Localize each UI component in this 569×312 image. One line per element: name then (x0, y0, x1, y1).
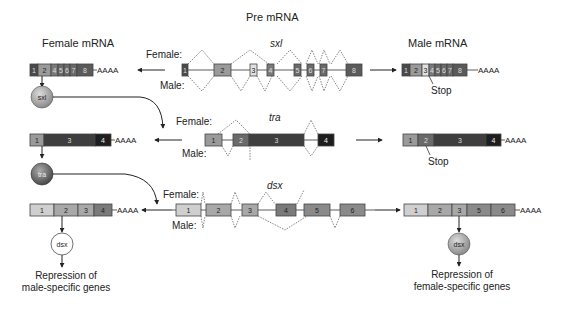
female-mrna-heading: Female mRNA (42, 37, 115, 49)
svg-text:5: 5 (296, 67, 300, 74)
svg-text:1: 1 (32, 67, 36, 74)
svg-text:3: 3 (84, 207, 88, 214)
female-outcome-line1: Repression of (35, 270, 97, 281)
svg-text:5: 5 (477, 207, 481, 214)
svg-text:4: 4 (284, 207, 288, 214)
svg-text:1: 1 (183, 67, 187, 74)
svg-text:6: 6 (65, 67, 69, 74)
svg-text:2: 2 (217, 207, 221, 214)
svg-text:8: 8 (352, 67, 356, 74)
svg-text:7: 7 (72, 67, 76, 74)
svg-text:2: 2 (414, 67, 418, 74)
svg-text:3: 3 (68, 137, 72, 144)
tra-pre-mrna: tra Female: Male: 1 2 3 4 (176, 112, 334, 160)
dsx-male-mrna: 1 2 3 5 6 AAAA (404, 204, 542, 216)
dsx-male-protein: dsx (448, 233, 470, 255)
svg-text:5: 5 (436, 67, 440, 74)
sxl-pre-mrna: sxl Female: Male: 1 2 3 4 5 6 7 (146, 38, 362, 91)
svg-text:4: 4 (101, 207, 105, 214)
male-mrna-heading: Male mRNA (408, 37, 468, 49)
svg-text:2: 2 (438, 207, 442, 214)
svg-text:6: 6 (351, 207, 355, 214)
svg-text:3: 3 (424, 67, 428, 74)
svg-text:8: 8 (83, 67, 87, 74)
svg-text:AAAA: AAAA (115, 136, 137, 145)
svg-text:tra: tra (269, 112, 281, 123)
svg-text:tra: tra (38, 171, 46, 178)
svg-text:AAAA: AAAA (117, 206, 139, 215)
svg-text:AAAA: AAAA (505, 136, 527, 145)
sxl-female-label: Female: (146, 49, 182, 60)
svg-text:3: 3 (252, 67, 256, 74)
svg-text:1: 1 (40, 207, 44, 214)
tra-regulates-dsx-arrow (53, 174, 157, 204)
svg-text:4: 4 (430, 67, 434, 74)
svg-text:1: 1 (35, 137, 39, 144)
svg-text:2: 2 (239, 137, 243, 144)
svg-text:7: 7 (448, 67, 452, 74)
svg-text:dsx: dsx (454, 241, 465, 248)
svg-text:8: 8 (458, 67, 462, 74)
svg-text:AAAA: AAAA (478, 66, 500, 75)
svg-text:1: 1 (409, 137, 413, 144)
pre-mrna-title: Pre mRNA (246, 11, 299, 23)
svg-text:1: 1 (212, 137, 216, 144)
sex-determination-diagram: Pre mRNA Female mRNA Male mRNA sxl Femal… (0, 0, 569, 312)
tra-female-mrna: 1 3 4 AAAA (30, 134, 137, 146)
sxl-regulates-tra-arrow (53, 97, 163, 128)
tra-stop-label: Stop (428, 156, 449, 167)
tra-male-mrna: 1 2 3 4 AAAA Stop (403, 134, 527, 167)
svg-text:dsx: dsx (267, 180, 284, 191)
svg-text:4: 4 (324, 137, 328, 144)
svg-text:6: 6 (501, 207, 505, 214)
male-outcome-line1: Repression of (431, 269, 493, 280)
sxl-male-label: Male: (160, 80, 184, 91)
svg-text:4: 4 (492, 137, 496, 144)
svg-text:5: 5 (59, 67, 63, 74)
svg-text:4: 4 (101, 137, 105, 144)
svg-text:1: 1 (187, 207, 191, 214)
male-outcome-line2: female-specific genes (414, 281, 511, 292)
polya-tail: AAAA (97, 66, 119, 75)
svg-text:sxl: sxl (38, 94, 47, 101)
female-outcome-line2: male-specific genes (22, 282, 110, 293)
svg-text:3: 3 (458, 137, 462, 144)
sxl-male-mrna: 1 2 3 4 5 6 7 8 AAAA Stop (402, 64, 500, 96)
svg-text:Female:: Female: (176, 116, 212, 127)
svg-text:1: 1 (404, 67, 408, 74)
svg-text:dsx: dsx (57, 241, 68, 248)
svg-text:4: 4 (269, 67, 273, 74)
svg-text:5: 5 (315, 207, 319, 214)
svg-text:1: 1 (414, 207, 418, 214)
svg-text:4: 4 (53, 67, 57, 74)
svg-text:2: 2 (221, 67, 225, 74)
svg-text:AAAA: AAAA (520, 206, 542, 215)
sxl-protein: sxl (31, 86, 53, 108)
dsx-female-mrna: 1 2 3 4 AAAA (30, 204, 139, 216)
svg-text:7: 7 (322, 67, 326, 74)
dsx-female-protein: dsx (51, 233, 73, 255)
sxl-female-mrna: 1 2 4 5 6 7 8 AAAA (30, 64, 119, 76)
svg-text:Male:: Male: (172, 220, 196, 231)
tra-protein: tra (31, 163, 53, 185)
svg-text:2: 2 (43, 67, 47, 74)
svg-text:3: 3 (458, 207, 462, 214)
svg-text:3: 3 (275, 137, 279, 144)
svg-text:6: 6 (309, 67, 313, 74)
svg-text:2: 2 (64, 207, 68, 214)
svg-text:Male:: Male: (182, 148, 206, 159)
svg-text:6: 6 (442, 67, 446, 74)
svg-text:3: 3 (248, 207, 252, 214)
svg-text:2: 2 (424, 137, 428, 144)
dsx-pre-mrna: dsx Female: Male: 1 2 3 4 5 6 (163, 180, 375, 231)
svg-text:Female:: Female: (163, 189, 199, 200)
sxl-gene-label: sxl (270, 38, 283, 49)
sxl-stop-label: Stop (431, 85, 452, 96)
